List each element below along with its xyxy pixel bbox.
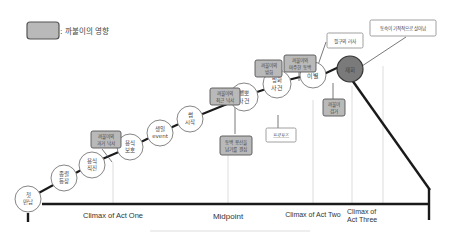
svg-text:보호: 보호 bbox=[125, 147, 135, 153]
svg-text:동백 용산을: 동백 용산을 bbox=[225, 139, 246, 146]
svg-text:등장: 등장 bbox=[59, 178, 69, 184]
svg-text:생일: 생일 bbox=[155, 125, 165, 132]
influence-box-recent-graffiti: 까불이의 최근 낙서 bbox=[210, 88, 240, 105]
svg-text:마주한 동백: 마주한 동백 bbox=[289, 64, 310, 71]
svg-text:용식: 용식 bbox=[87, 157, 97, 165]
svg-text:event: event bbox=[152, 133, 169, 139]
axis-labels: Climax of Act One Midpoint Climax of Act… bbox=[83, 208, 377, 223]
svg-text:종렬: 종렬 bbox=[59, 170, 69, 177]
svg-text:직진: 직진 bbox=[87, 164, 97, 172]
svg-text:프로포즈: 프로포즈 bbox=[273, 133, 290, 138]
node-reunion-climax: 재회 bbox=[337, 56, 363, 82]
svg-text:용식: 용식 bbox=[125, 139, 135, 147]
node-jongryeol-appears: 종렬 등장 bbox=[51, 165, 77, 191]
node-yongsik-direct: 용식 직진 bbox=[79, 152, 105, 178]
svg-text:검거: 검거 bbox=[330, 108, 338, 115]
svg-text:사건: 사건 bbox=[271, 84, 283, 92]
svg-text:과거 낙서: 과거 낙서 bbox=[97, 140, 114, 147]
svg-text:최근 낙서: 최근 낙서 bbox=[216, 97, 233, 104]
influence-box-arrest: 까불이 검거 bbox=[323, 99, 345, 116]
node-birthday-event: 생일 event bbox=[147, 120, 173, 146]
node-some-start: 썸 시작 bbox=[177, 106, 203, 132]
callout-proposal: 프로포즈 bbox=[266, 128, 296, 142]
influence-box-arson: 까불이의 방화 bbox=[255, 60, 282, 77]
label-midpoint: Midpoint bbox=[213, 212, 244, 221]
svg-text:이별: 이별 bbox=[307, 72, 319, 80]
svg-text:썸: 썸 bbox=[188, 111, 193, 118]
label-climax-act-one: Climax of Act One bbox=[83, 211, 143, 220]
legend-label: : 까불이의 영향 bbox=[60, 26, 109, 36]
svg-text:뺑뽀: 뺑뽀 bbox=[239, 89, 249, 96]
label-climax-act-two: Climax of Act Two bbox=[285, 211, 341, 218]
influence-box-past-graffiti: 까불이의 과거 낙서 bbox=[91, 131, 121, 148]
plot-structure-diagram: : 까불이의 영향 bbox=[0, 0, 450, 238]
callout-pilgu: 필구의 러사 bbox=[327, 33, 363, 48]
svg-text:남기를 결심: 남기를 결심 bbox=[225, 146, 246, 153]
svg-text:까불이: 까불이 bbox=[328, 101, 340, 108]
svg-text:까불이와: 까불이와 bbox=[292, 57, 309, 64]
influence-box-face-dongbaek: 까불이와 마주한 동백 bbox=[284, 55, 316, 72]
influence-box-decide-stay: 동백 용산을 남기를 결심 bbox=[220, 136, 252, 155]
svg-text:까불이의: 까불이의 bbox=[261, 62, 277, 69]
svg-text:까불이의: 까불이의 bbox=[98, 133, 114, 140]
label-climax-act-three-l2: Act Three bbox=[347, 216, 377, 223]
svg-text:재회: 재회 bbox=[345, 66, 355, 74]
svg-text:첫: 첫 bbox=[26, 192, 31, 199]
svg-text:방화: 방화 bbox=[265, 69, 274, 76]
label-climax-act-three-l1: Climax of bbox=[347, 208, 376, 215]
svg-text:동숙이 기적적으로 살아남: 동숙이 기적적으로 살아남 bbox=[380, 25, 428, 32]
svg-text:만남: 만남 bbox=[23, 198, 33, 205]
callout-survives: 동숙이 기적적으로 살아남 bbox=[370, 20, 436, 36]
node-first-meeting: 첫 만남 bbox=[15, 186, 41, 212]
svg-text:필구의 러사: 필구의 러사 bbox=[334, 38, 357, 45]
faint-caption bbox=[150, 230, 310, 232]
svg-text:까불이의: 까불이의 bbox=[217, 90, 233, 97]
legend-swatch bbox=[27, 22, 59, 39]
legend: : 까불이의 영향 bbox=[27, 22, 109, 39]
svg-text:시작: 시작 bbox=[185, 119, 195, 126]
